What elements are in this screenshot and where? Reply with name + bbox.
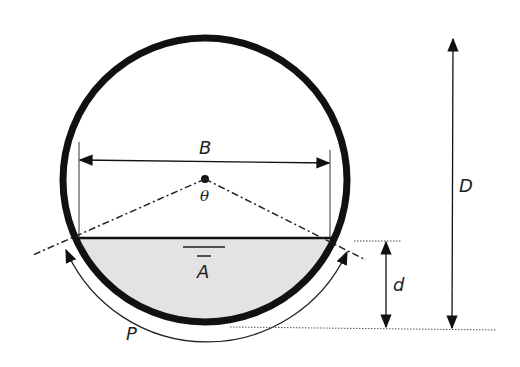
- perimeter-label: P: [126, 323, 137, 344]
- b-label: B: [199, 137, 211, 158]
- d-label: d: [393, 274, 405, 295]
- diameter-dimension-arrow: [452, 39, 453, 328]
- diameter-label: D: [459, 175, 473, 196]
- pipe-diagram: B θ A P d D: [0, 0, 520, 367]
- theta-label: θ: [200, 187, 209, 205]
- area-label: A: [196, 261, 209, 282]
- b-dimension-arrow: [80, 160, 329, 163]
